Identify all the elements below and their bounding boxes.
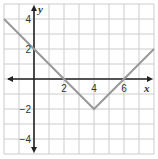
- y-tick-label: −4: [20, 134, 32, 145]
- y-tick-label: 4: [25, 14, 31, 25]
- y-axis-label: y: [36, 3, 43, 15]
- x-tick-label: 2: [61, 83, 67, 94]
- x-axis-arrow-left-icon: [7, 76, 13, 82]
- y-tick-label: −2: [20, 104, 32, 115]
- y-axis-arrow-down-icon: [31, 147, 37, 153]
- x-tick-label: 4: [91, 83, 97, 94]
- x-tick-label: 6: [121, 83, 127, 94]
- y-axis-arrow-up-icon: [31, 5, 37, 11]
- x-axis-label: x: [143, 82, 150, 94]
- axes: [7, 5, 153, 153]
- graph: 24642−2−4 x y: [0, 0, 158, 159]
- y-tick-label: 2: [25, 44, 31, 55]
